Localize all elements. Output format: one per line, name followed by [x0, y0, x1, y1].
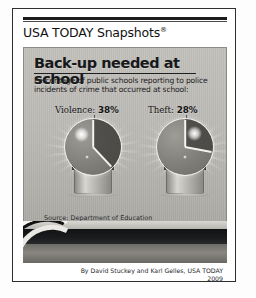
- beacon-specular-icon: [183, 155, 187, 159]
- beacon-plate: [160, 193, 210, 197]
- pie-chart-violence: [64, 118, 122, 176]
- masthead: USA TODAY Snapshots®: [23, 17, 227, 40]
- series-value-theft: 28%: [177, 105, 198, 115]
- series-label-theft-name: Theft:: [148, 105, 177, 115]
- chart-panel: Back-up needed at school Percentage of p…: [23, 47, 227, 242]
- byline-year: 2009: [81, 275, 223, 283]
- pie-beacon-theft: [148, 118, 222, 204]
- registered-mark-icon: ®: [160, 26, 167, 34]
- chart-subtitle: Percentage of public schools reporting t…: [34, 76, 220, 95]
- beacon-glow-icon: [74, 127, 89, 142]
- masthead-title-text: USA TODAY Snapshots: [23, 25, 160, 40]
- series-label-violence: Violence: 38%: [55, 105, 119, 115]
- beacon-specular-icon: [85, 155, 89, 159]
- pie-beacon-violence: [56, 118, 130, 204]
- byline: By David Stuckey and Karl Gelles, USA TO…: [81, 267, 223, 282]
- masthead-rule-thick: [23, 17, 227, 20]
- headline-underline: [34, 73, 196, 74]
- byline-credit: By David Stuckey and Karl Gelles, USA TO…: [81, 267, 223, 275]
- pie-slice-edge-start: [92, 120, 94, 147]
- car-dashboard-illustration: [23, 221, 227, 263]
- masthead-rule-thin: [23, 21, 227, 22]
- pie-chart-theft: [156, 118, 214, 176]
- beacon-plate: [68, 193, 118, 197]
- series-label-violence-name: Violence:: [55, 105, 98, 115]
- graphic-frame: USA TODAY Snapshots® Back-up needed at s…: [12, 8, 236, 282]
- snapshot-page: USA TODAY Snapshots® Back-up needed at s…: [0, 0, 256, 298]
- series-value-violence: 38%: [98, 105, 119, 115]
- series-label-theft: Theft: 28%: [148, 105, 198, 115]
- beacon-glow-icon: [187, 126, 202, 141]
- masthead-title: USA TODAY Snapshots®: [23, 25, 227, 40]
- pie-slice-edge-start: [184, 120, 186, 147]
